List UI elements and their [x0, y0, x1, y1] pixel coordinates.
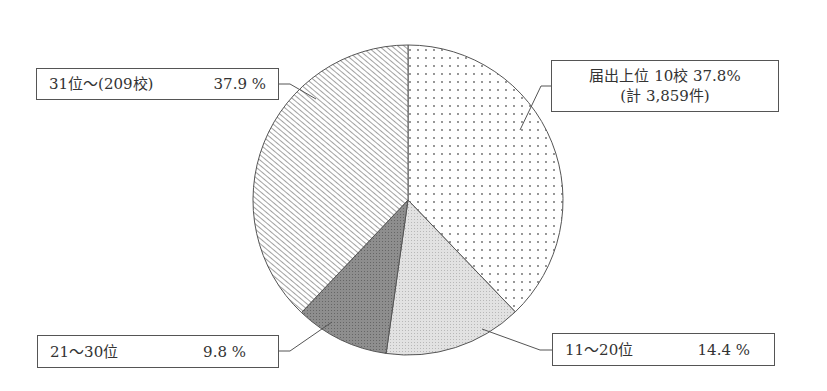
leader-bottom-right	[482, 329, 552, 350]
pie-slices	[253, 45, 563, 355]
label-bottom-right-name: 11〜20位	[565, 340, 633, 360]
label-bottom-left-value: 9.8 %	[203, 342, 246, 362]
label-top-left-value: 37.9 %	[214, 74, 266, 94]
label-top-right-line1: 届出上位 10校 37.8%	[552, 66, 778, 86]
label-bottom-right: 11〜20位 14.4 %	[552, 333, 775, 366]
label-bottom-left: 21〜30位 9.8 %	[37, 335, 279, 368]
label-top-right-line2: (計 3,859件)	[552, 86, 778, 106]
label-top-left-name: 31位〜(209校)	[49, 74, 153, 94]
label-bottom-right-value: 14.4 %	[698, 340, 750, 360]
label-top-left: 31位〜(209校) 37.9 %	[36, 68, 279, 100]
label-bottom-left-name: 21〜30位	[50, 342, 118, 362]
label-top-right: 届出上位 10校 37.8% (計 3,859件)	[551, 60, 779, 112]
